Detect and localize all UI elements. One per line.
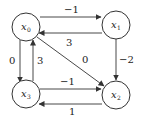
weight-x1-x0: 3: [66, 37, 72, 48]
weight-x3-x0: 3: [37, 55, 43, 66]
node-x1: x 1: [102, 11, 130, 39]
node-x0: x 0: [12, 13, 40, 41]
svg-text:1: 1: [117, 24, 121, 31]
weight-x1-x2: −2: [119, 54, 134, 65]
node-x2: x 2: [102, 81, 130, 109]
node-x3: x 3: [12, 80, 40, 108]
svg-text:3: 3: [27, 93, 31, 100]
graph-diagram: −1 3 −2 0 0 3 −1 1 x 0 x 1 x 2 x 3: [0, 0, 143, 121]
weight-x0-x3: 0: [9, 55, 15, 66]
svg-text:0: 0: [27, 26, 31, 33]
weight-x0-x1: −1: [64, 4, 79, 15]
weight-x2-x3: 1: [69, 106, 75, 117]
weight-x0-x2: 0: [82, 54, 88, 65]
svg-text:2: 2: [117, 94, 121, 101]
weight-x3-x2: −1: [60, 76, 75, 87]
